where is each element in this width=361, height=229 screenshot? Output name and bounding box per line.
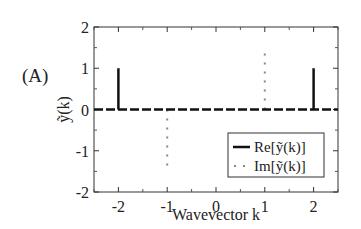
x-tick-label: 1 bbox=[261, 198, 269, 215]
y-tick-label: 0 bbox=[81, 102, 89, 119]
legend-im-label: Im[ỹ(k)] bbox=[254, 158, 306, 175]
x-tick-label: -2 bbox=[112, 198, 125, 215]
x-tick-label: 2 bbox=[310, 198, 318, 215]
y-tick-label: 2 bbox=[81, 19, 89, 36]
y-tick-label: 1 bbox=[81, 60, 89, 77]
y-tick-label: -1 bbox=[76, 143, 89, 160]
x-axis-title: Wavevector k bbox=[172, 206, 260, 223]
y-tick-label: -2 bbox=[76, 184, 89, 201]
spectrum-chart: -2-1012-2-1012Re[ỹ(k)]Im[ỹ(k)]Wavevector… bbox=[0, 0, 361, 229]
y-axis-title: ỹ(k) bbox=[55, 96, 73, 123]
panel-label: (A) bbox=[22, 65, 48, 87]
legend-re-label: Re[ỹ(k)] bbox=[254, 139, 306, 156]
